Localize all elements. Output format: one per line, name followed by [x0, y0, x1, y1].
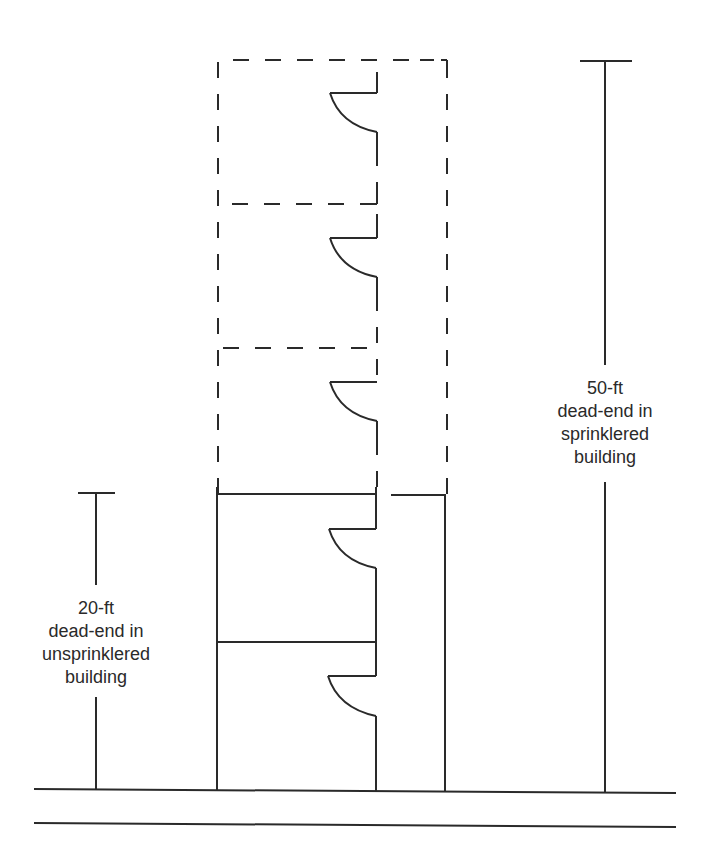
label-line: building: [42, 666, 150, 689]
label-50ft-sprinklered: 50-ft dead-end in sprinklered building: [557, 377, 652, 469]
label-line: dead-end in: [42, 620, 150, 643]
door-3: [330, 382, 377, 439]
door-4: [329, 529, 376, 568]
label-line: 50-ft: [557, 377, 652, 400]
corridor-wall-lower: [34, 823, 676, 827]
label-line: building: [557, 446, 652, 469]
door-1: [330, 93, 377, 150]
label-line: unsprinklered: [42, 643, 150, 666]
label-line: 20-ft: [42, 597, 150, 620]
corridor-wall-upper: [34, 789, 676, 793]
door-2: [330, 238, 377, 295]
solid-rooms: [217, 487, 446, 792]
dashed-extension: [218, 60, 447, 494]
label-20ft-unsprinklered: 20-ft dead-end in unsprinklered building: [42, 597, 150, 689]
label-line: dead-end in: [557, 400, 652, 423]
label-line: sprinklered: [557, 423, 652, 446]
door-5: [328, 676, 376, 716]
